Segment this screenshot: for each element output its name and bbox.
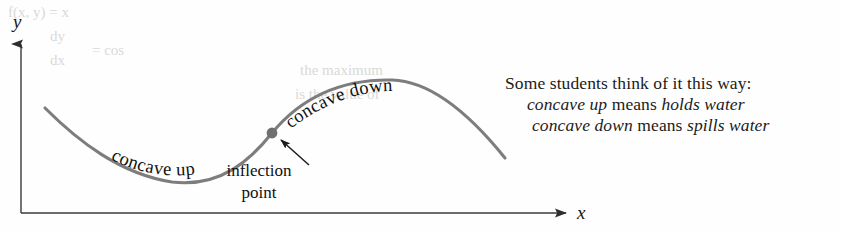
label-concave-up-text: concave up <box>109 145 196 180</box>
svg-text:concave down: concave down <box>281 75 393 132</box>
inflection-label-line1: inflection <box>226 161 292 180</box>
label-concave-down: concave down <box>281 75 393 132</box>
inflection-point-dot <box>267 128 278 139</box>
note-line-2: concave up means holds water <box>505 94 835 115</box>
label-concave-down-text: concave down <box>281 75 393 132</box>
concavity-figure: f(x, y) = x dy = cos dx the maximum is t… <box>0 0 841 233</box>
note-line-1: Some students think of it this way: <box>505 73 835 94</box>
svg-text:concave up: concave up <box>109 145 196 180</box>
note-line-3-connector: means <box>633 115 687 135</box>
note-line-3-term: concave down <box>532 115 633 135</box>
x-axis-label: x <box>576 202 586 223</box>
explanatory-note: Some students think of it this way: conc… <box>505 73 835 136</box>
note-line-2-connector: means <box>607 94 661 114</box>
inflection-label-line2: point <box>242 183 277 202</box>
note-line-2-term: concave up <box>527 94 607 114</box>
label-concave-up: concave up <box>109 145 196 180</box>
y-axis-label: y <box>11 11 22 32</box>
note-line-3-meaning: spills water <box>687 115 769 135</box>
note-line-3: concave down means spills water <box>505 115 835 136</box>
note-line-2-meaning: holds water <box>661 94 744 114</box>
